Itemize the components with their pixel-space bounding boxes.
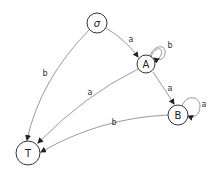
- svg-text:B: B: [175, 110, 182, 121]
- svg-text:σ: σ: [94, 18, 101, 29]
- edge-label-A-T: a: [88, 88, 93, 97]
- node-sigma: σ: [87, 13, 107, 33]
- svg-text:A: A: [143, 59, 150, 70]
- edge-label-A-A: b: [167, 41, 172, 50]
- svg-text:T: T: [24, 148, 32, 159]
- edge-A-T: [38, 69, 138, 143]
- state-diagram: a b b a a a b σ A B T: [0, 0, 217, 174]
- edge-label-A-B: a: [168, 84, 173, 93]
- node-B: B: [168, 105, 188, 125]
- edge-B-T: [41, 115, 168, 152]
- node-T: T: [16, 141, 40, 165]
- node-A: A: [137, 55, 155, 73]
- edge-label-B-T: b: [111, 118, 116, 127]
- edge-label-B-B: a: [202, 100, 207, 109]
- edge-label-sigma-A: a: [129, 35, 134, 44]
- edge-label-sigma-T: b: [42, 69, 47, 78]
